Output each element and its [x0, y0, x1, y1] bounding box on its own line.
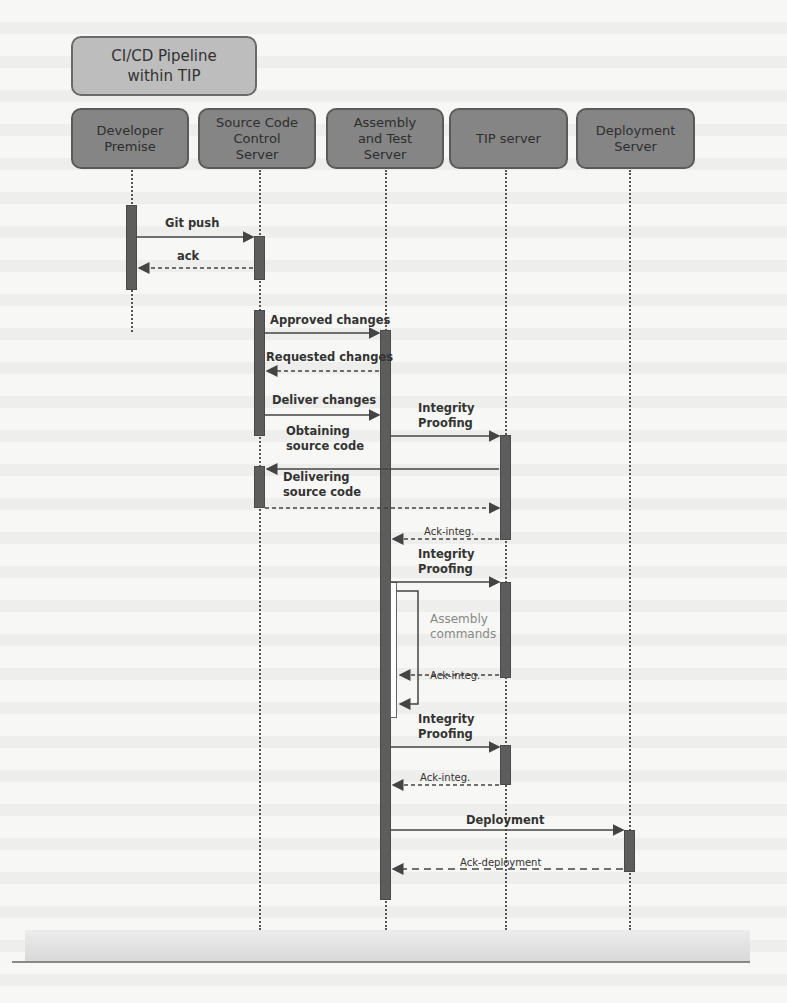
message-label-integrity-proofing-3: Integrity Proofing [418, 712, 475, 742]
message-label-deliver-changes: Deliver changes [272, 393, 376, 408]
message-label-ack-integ-1: Ack-integ. [424, 524, 474, 539]
message-label-ack-integ-2: Ack-integ. [430, 668, 480, 683]
message-label-ack-integ-3: Ack-integ. [420, 770, 470, 785]
message-label-integrity-proofing-2: Integrity Proofing [418, 547, 475, 577]
message-label-requested-changes: Requested changes [266, 350, 393, 365]
message-arrows [0, 0, 787, 1003]
message-label-obtaining-source-code: Obtaining source code [286, 424, 364, 454]
figure-bottom-shade [25, 930, 750, 962]
message-label-deployment: Deployment [466, 813, 544, 828]
message-label-integrity-proofing-1: Integrity Proofing [418, 401, 475, 431]
message-label-delivering-source-code: Delivering source code [283, 470, 361, 500]
message-label-ack-deployment: Ack-deployment [460, 855, 541, 870]
message-label-assembly-commands: Assembly commands [430, 612, 496, 642]
page-rule [12, 961, 750, 963]
message-label-git-push: Git push [165, 216, 219, 231]
message-label-approved-changes: Approved changes [270, 313, 390, 328]
message-label-ack: ack [177, 249, 199, 264]
